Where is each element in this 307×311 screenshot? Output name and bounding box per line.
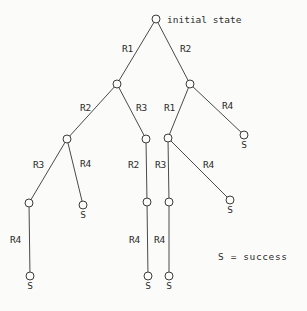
tree-node [152,15,160,23]
edge-rule-label: R4 [222,100,234,111]
node-success-label: S [80,209,86,220]
tree-node [25,199,33,207]
edge-rule-label: R3 [136,102,147,113]
tree-node [165,198,173,206]
tree-node-success [226,196,234,204]
tree-node-success [79,201,87,209]
edge-rule-label: R4 [129,234,141,245]
edge-rule-label: R2 [128,159,139,170]
tree-edge [193,87,241,133]
tree-node [63,135,71,143]
edge-rule-label: R1 [122,43,134,54]
edge-rule-label: R4 [203,159,215,170]
edge-rule-label: R4 [10,234,22,245]
tree-edge [168,142,169,198]
node-success-label: S [227,204,233,215]
tree-node [142,135,150,143]
edge-rule-label: R2 [80,102,91,113]
edge-rule-label: R3 [155,159,166,170]
tree-edge [68,143,82,201]
legend-caption: S = success [218,251,288,262]
tree-edge [70,87,115,136]
tree-diagram-svg: SSSSSS R1R2R2R3R1R4R3R4R2R3R4R4R4R4 init… [0,0,307,311]
node-success-label: S [241,139,247,150]
tree-node-success [165,272,173,280]
tree-edge [147,206,148,272]
edge-labels-group: R1R2R2R3R1R4R3R4R2R3R4R4R4R4 [10,43,234,245]
tree-node [113,80,121,88]
initial-state-caption: initial state [167,14,242,25]
edge-rule-label: R4 [154,234,166,245]
tree-node [143,198,151,206]
edge-rule-label: R4 [80,158,92,169]
tree-node-success [144,272,152,280]
node-success-label: S [27,280,33,291]
tree-edge [171,141,227,197]
tree-node [186,80,194,88]
node-success-label: S [145,280,151,291]
tree-edge [29,207,30,272]
tree-edge [31,142,65,199]
tree-node [164,134,172,142]
tree-edge [146,143,147,198]
tree-node-success [240,131,248,139]
tree-node-success [26,272,34,280]
edge-rule-label: R1 [164,102,176,113]
node-success-label: S [166,280,172,291]
search-tree-figure: SSSSSS R1R2R2R3R1R4R3R4R2R3R4R4R4R4 init… [0,0,307,311]
edge-rule-label: R2 [180,43,191,54]
edge-rule-label: R3 [33,159,44,170]
